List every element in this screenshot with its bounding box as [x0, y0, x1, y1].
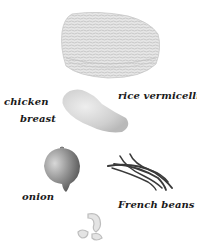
label-french-beans: French beans [118, 199, 195, 210]
rice-vermicelli-image [58, 8, 164, 80]
ingredients-illustration: rice vermicelli chicken breast onion Fre… [0, 0, 197, 249]
label-onion: onion [22, 191, 54, 202]
onion-image [42, 146, 82, 194]
label-breast: breast [20, 113, 56, 124]
prawns-image [74, 210, 108, 244]
french-beans-image [104, 152, 176, 192]
label-chicken: chicken [4, 96, 49, 107]
label-rice-vermicelli: rice vermicelli [118, 90, 197, 101]
